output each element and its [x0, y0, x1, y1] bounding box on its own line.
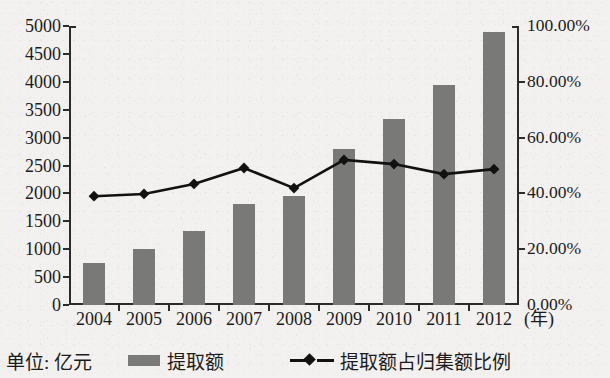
right-axis-tick — [519, 137, 525, 139]
left-axis-tick-label: 0 — [0, 296, 61, 314]
left-axis-tick-label: 5000 — [0, 17, 61, 35]
unit-note-label: 单位: 亿元 — [6, 347, 92, 374]
left-axis-tick-label: 500 — [0, 268, 61, 286]
right-axis-tick — [519, 248, 525, 250]
legend-bar-label: 提取额 — [167, 347, 224, 374]
chart-figure: 0500100015002000250030003500400045005000… — [0, 0, 610, 378]
legend-item-line: 提取额占归集额比例 — [290, 347, 511, 374]
line-data-point-marker — [239, 163, 250, 174]
right-axis-tick-label: 20.00% — [527, 240, 581, 258]
legend-item-bar: 提取额 — [128, 347, 224, 374]
left-axis-tick-label: 1500 — [0, 212, 61, 230]
line-data-point-marker — [189, 179, 200, 190]
line-series — [69, 26, 519, 305]
right-axis-tick-label: 80.00% — [527, 73, 581, 91]
legend-line-marker-icon — [290, 353, 334, 367]
right-axis-tick-label: 60.00% — [527, 129, 581, 147]
left-axis-tick-label: 1000 — [0, 240, 61, 258]
left-axis-tick-label: 4000 — [0, 73, 61, 91]
line-data-point-marker — [339, 155, 350, 166]
line-data-point-marker — [439, 169, 450, 180]
right-axis-tick-label: 40.00% — [527, 184, 581, 202]
line-data-point-marker — [289, 183, 300, 194]
left-axis-tick-label: 4500 — [0, 45, 61, 63]
right-axis-tick — [519, 192, 525, 194]
line-data-point-marker — [389, 159, 400, 170]
legend-diamond-icon — [303, 353, 316, 366]
line-data-point-marker — [489, 164, 500, 175]
left-axis-tick-label: 2000 — [0, 184, 61, 202]
line-data-point-marker — [89, 191, 100, 202]
left-axis-tick-label: 3500 — [0, 101, 61, 119]
plot-area — [69, 26, 519, 305]
chart-legend: 单位: 亿元 提取额 提取额占归集额比例 — [6, 345, 606, 375]
legend-line-right-segment — [317, 359, 334, 362]
right-axis-tick — [519, 81, 525, 83]
left-axis-tick-label: 2500 — [0, 157, 61, 175]
line-data-point-marker — [139, 189, 150, 200]
line-series-markers — [89, 155, 500, 202]
legend-bar-swatch-icon — [128, 355, 160, 366]
x-axis-tick-label: 2012 — [465, 310, 523, 328]
right-axis-tick-label: 100.00% — [527, 17, 590, 35]
left-axis-tick-label: 3000 — [0, 129, 61, 147]
x-axis-unit-label: (年) — [524, 310, 554, 328]
legend-line-label: 提取额占归集额比例 — [340, 347, 511, 374]
